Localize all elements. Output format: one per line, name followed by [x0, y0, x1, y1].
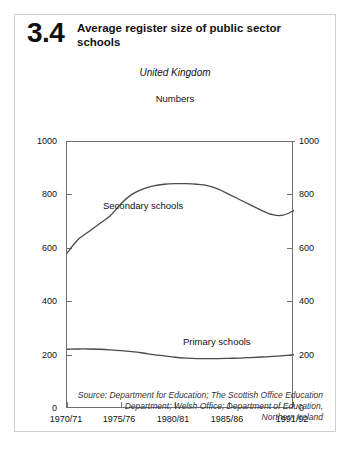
- series-label-primary-schools: Primary schools: [183, 336, 251, 347]
- source-note-line-3: Northern Ireland: [29, 412, 323, 423]
- y-axis-label-800: 800: [23, 190, 57, 199]
- y-axis-label-200: 200: [23, 351, 57, 360]
- y-axis-right-label-1000: 1000: [299, 137, 333, 146]
- figure-header: 3.4 Average register size of public sect…: [15, 15, 335, 67]
- y-axis-right-label-400: 400: [299, 297, 333, 306]
- chart-units-label: Numbers: [15, 93, 335, 104]
- chart-area: United Kingdom Numbers 1000 800 600 400 …: [15, 67, 335, 385]
- page-root: 3.4 Average register size of public sect…: [0, 0, 352, 449]
- series-line-primary-schools: [67, 349, 294, 359]
- series-label-secondary-schools: Secondary schools: [103, 200, 183, 211]
- source-note-line-2: Department; Welsh Office; Department of …: [29, 401, 323, 412]
- y-axis-right-label-200: 200: [299, 351, 333, 360]
- series-line-secondary-schools: [67, 184, 294, 253]
- plot-frame: Secondary schools Primary schools: [66, 141, 293, 408]
- plot-lines: [67, 141, 294, 408]
- y-axis-label-400: 400: [23, 297, 57, 306]
- chart-region-label: United Kingdom: [15, 67, 335, 78]
- figure-card: 3.4 Average register size of public sect…: [14, 14, 336, 432]
- figure-number: 3.4: [27, 19, 64, 47]
- y-axis-label-1000: 1000: [23, 137, 57, 146]
- source-note: Source: Department for Education; The Sc…: [29, 390, 323, 423]
- figure-title: Average register size of public sector s…: [77, 22, 323, 49]
- source-note-line-1: Source: Department for Education; The Sc…: [29, 390, 323, 401]
- y-axis-label-600: 600: [23, 244, 57, 253]
- y-axis-right-label-800: 800: [299, 190, 333, 199]
- y-axis-right-label-600: 600: [299, 244, 333, 253]
